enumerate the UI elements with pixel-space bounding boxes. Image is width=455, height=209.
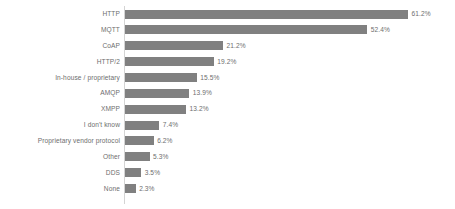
category-label: I don't know <box>2 117 120 133</box>
plot-area: HTTP61.2%MQTT52.4%CoAP21.2%HTTP/219.2%In… <box>0 0 455 209</box>
bar-row: HTTP61.2% <box>0 6 455 22</box>
bar-chart: HTTP61.2%MQTT52.4%CoAP21.2%HTTP/219.2%In… <box>0 0 455 209</box>
bar <box>125 10 408 19</box>
category-label: XMPP <box>2 101 120 117</box>
bar <box>125 136 154 145</box>
bar-row: CoAP21.2% <box>0 38 455 54</box>
bar <box>125 184 136 193</box>
value-label: 3.5% <box>145 165 160 181</box>
bar-row: I don't know7.4% <box>0 117 455 133</box>
category-label: HTTP/2 <box>2 54 120 70</box>
bar <box>125 121 159 130</box>
value-label: 6.2% <box>157 133 172 149</box>
value-label: 21.2% <box>227 38 246 54</box>
value-label: 13.2% <box>190 101 209 117</box>
value-label: 52.4% <box>371 22 390 38</box>
value-label: 2.3% <box>139 181 154 197</box>
bar-row: In-house / proprietary15.5% <box>0 70 455 86</box>
bar <box>125 152 150 161</box>
value-label: 13.9% <box>193 85 212 101</box>
bar-row: AMQP13.9% <box>0 85 455 101</box>
value-label: 19.2% <box>217 54 236 70</box>
bar-row: None2.3% <box>0 181 455 197</box>
bar-row: MQTT52.4% <box>0 22 455 38</box>
value-label: 61.2% <box>412 6 431 22</box>
bar-row: Other5.3% <box>0 149 455 165</box>
bar <box>125 41 223 50</box>
category-label: Proprietary vendor protocol <box>2 133 120 149</box>
bar-row: HTTP/219.2% <box>0 54 455 70</box>
category-label: MQTT <box>2 22 120 38</box>
bar-row: Proprietary vendor protocol6.2% <box>0 133 455 149</box>
category-label: DDS <box>2 165 120 181</box>
category-label: HTTP <box>2 6 120 22</box>
value-label: 7.4% <box>163 117 178 133</box>
category-label: Other <box>2 149 120 165</box>
bar <box>125 168 141 177</box>
bar <box>125 57 214 66</box>
bar-row: DDS3.5% <box>0 165 455 181</box>
bar <box>125 73 197 82</box>
bar <box>125 25 367 34</box>
value-label: 5.3% <box>153 149 168 165</box>
bar <box>125 89 189 98</box>
category-label: In-house / proprietary <box>2 70 120 86</box>
bar <box>125 105 186 114</box>
value-label: 15.5% <box>200 70 219 86</box>
category-label: None <box>2 181 120 197</box>
category-label: CoAP <box>2 38 120 54</box>
bar-row: XMPP13.2% <box>0 101 455 117</box>
category-label: AMQP <box>2 85 120 101</box>
